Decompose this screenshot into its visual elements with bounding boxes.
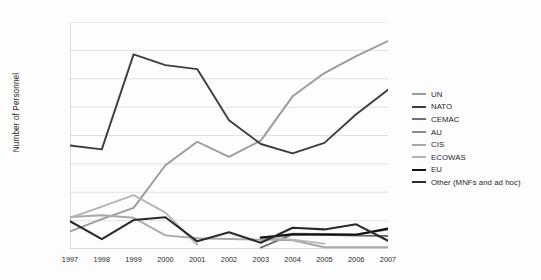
x-tick-label: 1999	[125, 255, 141, 264]
legend-item-un[interactable]: UN	[412, 88, 540, 101]
legend-label: EU	[431, 165, 442, 174]
legend-swatch-icon	[412, 144, 426, 146]
x-tick-label: 2000	[157, 255, 173, 264]
x-tick-label: 1997	[62, 255, 78, 264]
x-tick-label: 2001	[189, 255, 205, 264]
legend-swatch-icon	[412, 106, 426, 108]
legend-item-eu[interactable]: EU	[412, 164, 540, 177]
x-tick-label: 1998	[94, 255, 110, 264]
x-tick-label: 2006	[348, 255, 364, 264]
legend-swatch-icon	[412, 169, 426, 171]
x-tick-label: 2007	[380, 255, 396, 264]
legend-label: UN	[431, 90, 442, 99]
legend-swatch-icon	[412, 156, 426, 158]
legend-item-cis[interactable]: CIS	[412, 138, 540, 151]
chart-legend: UNNATOCEMACAUCISECOWASEUOther (MNFs and …	[412, 88, 540, 189]
legend-item-nato[interactable]: NATO	[412, 101, 540, 114]
legend-swatch-icon	[412, 131, 426, 133]
legend-label: ECOWAS	[431, 153, 466, 162]
x-tick-label: 2003	[253, 255, 269, 264]
legend-label: NATO	[431, 102, 452, 111]
legend-swatch-icon	[412, 93, 426, 95]
chart-figure: Number of Personnel 10,00020,00030,00040…	[0, 0, 541, 280]
legend-item-au[interactable]: AU	[412, 126, 540, 139]
legend-label: AU	[431, 128, 442, 137]
legend-swatch-icon	[412, 118, 426, 120]
legend-item-cemac[interactable]: CEMAC	[412, 113, 540, 126]
x-tick-label: 2005	[316, 255, 332, 264]
legend-item-ecowas[interactable]: ECOWAS	[412, 151, 540, 164]
legend-label: CEMAC	[431, 115, 459, 124]
x-tick-label: 2004	[284, 255, 300, 264]
legend-item-other-mnfs-and-ad-hoc[interactable]: Other (MNFs and ad hoc)	[412, 176, 540, 189]
legend-label: Other (MNFs and ad hoc)	[431, 178, 521, 187]
legend-swatch-icon	[412, 181, 426, 183]
x-tick-label: 2002	[221, 255, 237, 264]
legend-label: CIS	[431, 140, 444, 149]
